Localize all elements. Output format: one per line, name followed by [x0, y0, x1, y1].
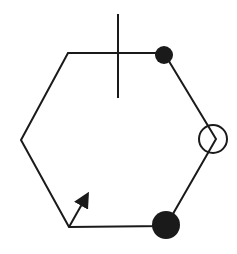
vertex-markers — [152, 46, 227, 239]
top-right-vertex-dot-filled-dot-icon — [155, 46, 173, 64]
diagram-canvas — [0, 0, 237, 254]
hexagon-diagram — [0, 0, 237, 254]
arrow-icon — [69, 197, 86, 227]
right-vertex-circle-open-circle-icon — [199, 125, 227, 153]
bottom-right-vertex-dot-filled-dot-icon — [152, 211, 180, 239]
